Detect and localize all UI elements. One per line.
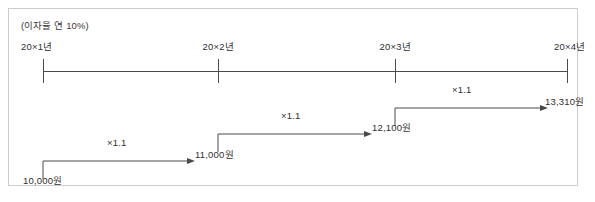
cashflow-arrowhead-2 [364,131,372,137]
amount-label-3: 12,100원 [372,120,411,134]
amount-label-2: 11,000원 [195,147,234,161]
figure-page: (이자율 연 10%) 20×1년20×2년20×3년20×4년 10,000원… [0,0,595,202]
amount-label-4: 13,310원 [545,94,584,108]
year-label-3: 20×3년 [380,39,411,53]
cashflow-arrow-path-1 [43,161,189,179]
timeline-axis-group [43,59,567,83]
year-label-4: 20×4년 [554,39,585,53]
growth-factor-label-1: ×1.1 [107,137,127,148]
cashflow-arrowhead-1 [187,158,195,164]
amount-label-1: 10,000원 [23,173,62,187]
year-label-1: 20×1년 [21,39,52,53]
timeline-figure-container: (이자율 연 10%) 20×1년20×2년20×3년20×4년 10,000원… [8,8,578,186]
growth-factor-label-3: ×1.1 [452,84,472,95]
cashflow-arrow-path-3 [395,108,542,126]
timeline-diagram-svg [9,9,579,187]
growth-factor-label-2: ×1.1 [281,110,301,121]
page-bottom-fragment [10,193,430,198]
year-label-2: 20×2년 [203,39,234,53]
cashflow-arrow-path-2 [218,134,366,152]
